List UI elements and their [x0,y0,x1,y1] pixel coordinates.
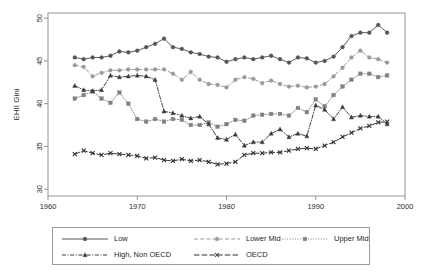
series-point [278,112,282,116]
series-line [75,74,387,127]
series-point [73,63,77,67]
series-point [242,75,246,79]
series-point [350,78,354,82]
series-point [225,60,229,64]
series-point [314,98,318,102]
series-point [225,85,229,89]
series-point [118,91,122,95]
x-tick-label: 2000 [397,202,414,211]
legend-sample-high-non-oecd [61,249,109,261]
series-point [305,56,309,60]
series-point [234,57,238,61]
series-point [91,56,95,60]
series-point [269,54,273,58]
series-point [198,114,202,118]
series-line [75,51,387,88]
series-point [82,57,86,61]
series-point [216,83,220,87]
series-point [180,78,184,82]
series-point [171,117,175,121]
series-point [162,68,166,72]
series-point [189,70,193,74]
series-point [189,50,193,54]
series-point [314,85,318,89]
series-point [376,57,380,61]
series-point [198,78,202,82]
series-point [198,123,202,127]
series-point [73,56,77,60]
series-point [332,55,336,59]
chart-figure: 303540455019601970198019902000yearEHII G… [0,0,422,273]
series-point [376,23,380,27]
series-point [198,52,202,56]
legend-label-lower-mid: Lower Mid [246,233,281,245]
legend-sample-marker [215,237,219,241]
series-point [260,56,264,60]
series-point [251,57,255,61]
series-point [180,118,184,122]
legend-label-upper-mid: Upper Mid [334,233,369,245]
legend-entry-oecd[interactable]: OECD [193,248,268,262]
series-point [358,49,362,53]
chart-legend: Low Lower Mid Upper Mid High, Non OECD [52,227,370,265]
series-point [385,61,389,65]
series-point [314,147,318,151]
series-point [368,72,372,76]
plot-frame [48,13,405,196]
series-point [135,117,139,121]
series-point [216,56,220,60]
series-point [340,105,344,109]
series-line [75,25,387,63]
series-point [287,61,291,65]
legend-label-low: Low [114,233,128,245]
series-point [153,117,157,121]
series-point [341,45,345,49]
series-point [73,97,77,101]
series-point [153,68,157,72]
series-point [144,120,148,124]
series-point [260,81,264,85]
series-point [296,56,300,60]
series-point [234,78,238,82]
legend-entry-low[interactable]: Low [61,232,128,246]
series-point [82,65,86,69]
series-point [127,102,131,106]
series-point [162,109,166,113]
legend-sample-lower-mid [193,233,241,245]
series-point [278,57,282,61]
series-point [287,114,291,118]
series-point [385,31,389,35]
legend-sample-oecd [193,249,241,261]
legend-entry-high-non-oecd[interactable]: High, Non OECD [61,248,171,262]
series-point [341,135,345,139]
legend-entry-upper-mid[interactable]: Upper Mid [281,232,369,246]
y-tick-label: 50 [36,14,45,22]
series-point [126,68,130,72]
series-point [323,82,327,86]
series-point [251,77,255,81]
series-point [118,68,122,72]
series-lower-mid [73,49,389,90]
series-upper-mid [73,72,389,129]
series-point [171,45,175,49]
series-point [162,37,166,41]
series-point [153,42,157,46]
legend-sample-marker [303,237,307,241]
x-axis-title: year [219,212,235,215]
series-point [314,103,318,107]
series-point [242,153,246,157]
plot-area: 303540455019601970198019902000yearEHII G… [0,0,422,215]
y-tick-label: 45 [36,57,45,65]
y-tick-label: 40 [36,99,45,107]
series-point [287,85,291,89]
x-tick-label: 1990 [307,202,324,211]
series-point [100,56,104,60]
series-point [359,72,363,76]
series-point [180,47,184,51]
legend-label-high-non-oecd: High, Non OECD [114,249,171,261]
legend-entry-lower-mid[interactable]: Lower Mid [193,232,281,246]
series-line [75,122,387,165]
series-point [350,34,354,38]
series-point [305,134,309,138]
y-axis-title: EHII Gini [12,88,21,120]
